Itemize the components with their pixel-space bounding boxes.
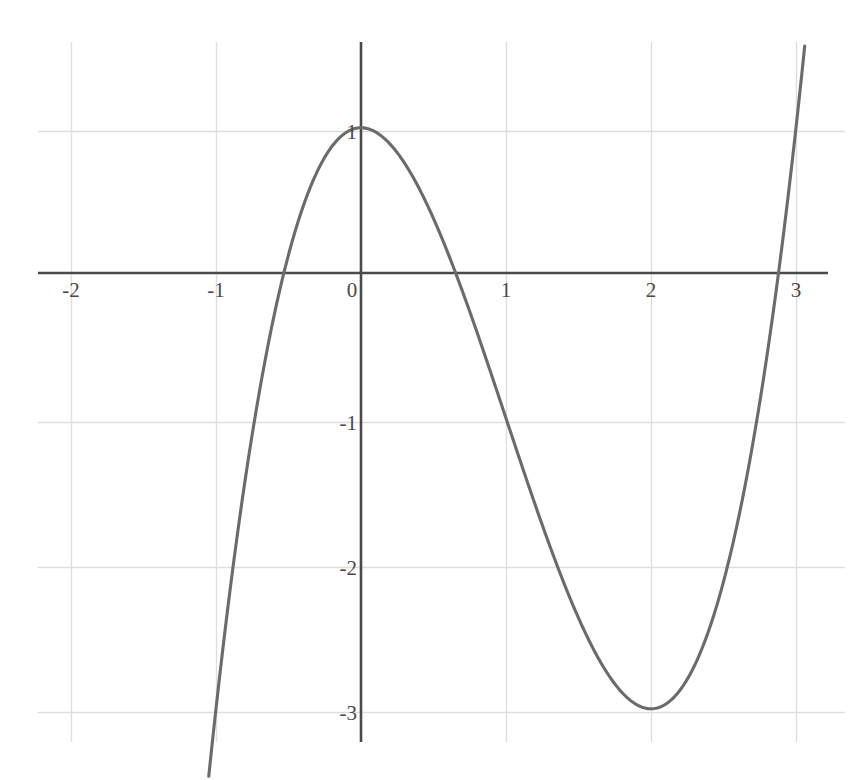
y-tick-label-1: 1: [347, 120, 358, 145]
x-tick-label--2: -2: [62, 278, 80, 303]
grid-lines: [38, 42, 845, 742]
horizontal-grid-lines: [38, 132, 845, 713]
y-tick-label--3: -3: [340, 701, 358, 726]
function-plot: -2 -1 0 1 2 3 1 -1 -2 -3: [0, 0, 857, 780]
x-tick-label-1: 1: [501, 278, 512, 303]
x-tick-label-3: 3: [791, 278, 802, 303]
x-tick-label-2: 2: [646, 278, 657, 303]
y-tick-label--2: -2: [340, 556, 358, 581]
plot-canvas: [0, 0, 857, 780]
y-tick-label--1: -1: [340, 411, 358, 436]
x-tick-label--1: -1: [207, 278, 225, 303]
x-tick-label-0: 0: [347, 278, 358, 303]
axes: [38, 42, 828, 742]
vertical-grid-lines: [72, 42, 797, 742]
